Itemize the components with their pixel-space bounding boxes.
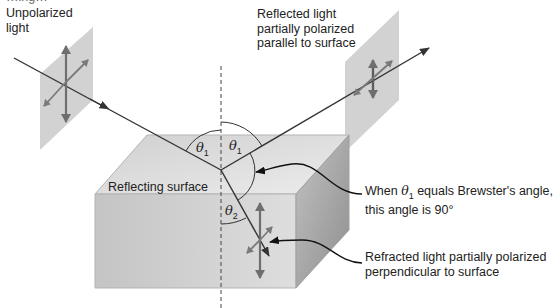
reflected-label-line2: partially polarized	[257, 22, 356, 37]
brewster-label-line2: this angle is 90°	[365, 203, 553, 218]
refracted-label-line1: Refracted light partially polarized	[365, 250, 546, 265]
refracted-label-line2: perpendicular to surface	[365, 265, 546, 280]
cut-off-top-text: …ing…	[6, 0, 48, 5]
reflected-light-label: Reflected light partially polarized para…	[257, 7, 356, 51]
unpolarized-label-line1: Unpolarized	[6, 6, 73, 21]
box-front-face	[95, 194, 296, 288]
reflected-label-line1: Reflected light	[257, 7, 356, 22]
unpolarized-label-line2: light	[6, 21, 73, 36]
incident-ray-direction-arrow	[90, 99, 105, 107]
reflecting-surface-label: Reflecting surface	[108, 180, 208, 195]
reflected-angle-symbol: θ1	[229, 138, 242, 156]
brewster-angle-label: When θ1 equals Brewster's angle, this an…	[365, 184, 553, 218]
refracted-angle-symbol: θ2	[225, 203, 238, 221]
incident-angle-symbol: θ1	[196, 140, 209, 158]
brewster-diagram: …ing… Unpolarized light Reflected light …	[0, 0, 554, 308]
unpolarized-light-label: Unpolarized light	[6, 6, 73, 35]
refracted-light-label: Refracted light partially polarized perp…	[365, 250, 546, 279]
brewster-label-line1: When θ1 equals Brewster's angle,	[365, 184, 553, 203]
reflected-label-line3: parallel to surface	[257, 36, 356, 51]
